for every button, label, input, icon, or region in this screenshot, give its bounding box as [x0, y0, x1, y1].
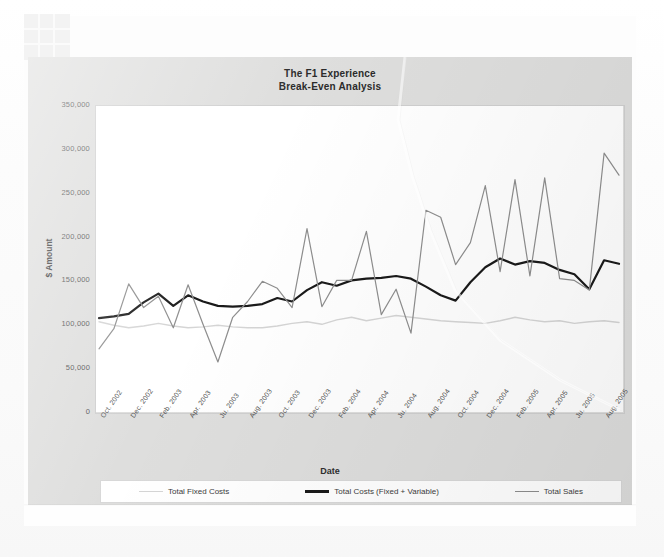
legend-item[interactable]: Total Sales	[515, 487, 583, 496]
legend-swatch	[515, 491, 539, 492]
series-line	[99, 259, 619, 319]
legend-label: Total Sales	[544, 487, 583, 496]
y-axis-tick-label: 300,000	[34, 144, 90, 153]
y-axis-tick-label: 50,000	[34, 363, 90, 372]
plot-area	[95, 105, 623, 412]
legend-label: Total Costs (Fixed + Variable)	[334, 487, 439, 496]
chart-title-line2: Break-Even Analysis	[28, 80, 632, 93]
series-line	[99, 153, 619, 362]
legend-item[interactable]: Total Costs (Fixed + Variable)	[305, 487, 439, 496]
y-axis-tick-label: 250,000	[34, 188, 90, 197]
chart-title-line1: The F1 Experience	[28, 67, 632, 80]
spreadsheet-grid-icon	[24, 14, 70, 60]
y-axis-tick-label: 200,000	[34, 232, 90, 241]
y-axis-title: $ Amount	[44, 223, 54, 293]
legend-label: Total Fixed Costs	[168, 487, 229, 496]
legend-swatch	[139, 491, 163, 492]
y-axis-tick-label: 150,000	[34, 275, 90, 284]
y-axis-tick-label: 100,000	[34, 319, 90, 328]
legend-item[interactable]: Total Fixed Costs	[139, 487, 229, 496]
legend-swatch	[305, 490, 329, 492]
chart-lines	[95, 105, 623, 412]
y-axis-tick-label: 0	[34, 407, 90, 416]
chart-title: The F1 Experience Break-Even Analysis	[28, 67, 632, 93]
y-axis-tick-label: 350,000	[34, 100, 90, 109]
x-axis-title: Date	[28, 466, 632, 476]
chart-panel: The F1 Experience Break-Even Analysis 05…	[28, 57, 632, 505]
scanned-page-background: The F1 Experience Break-Even Analysis 05…	[0, 0, 664, 557]
y-axis-ticks: 050,000100,000150,000200,000250,000300,0…	[28, 57, 90, 505]
chart-legend: Total Fixed CostsTotal Costs (Fixed + Va…	[100, 480, 622, 503]
